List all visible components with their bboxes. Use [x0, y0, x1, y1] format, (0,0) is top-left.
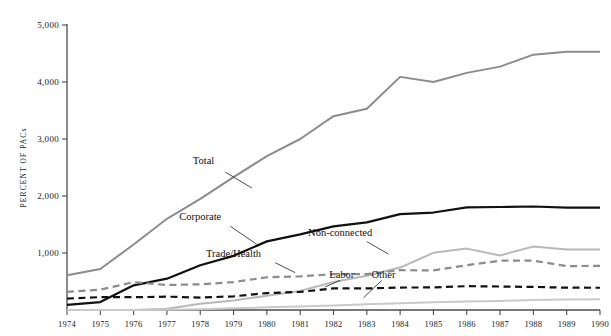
- x-tick-label: 1989: [558, 319, 576, 329]
- y-tick-label: 2,000: [37, 191, 59, 201]
- x-tick-label: 1985: [425, 319, 443, 329]
- y-axis-title: PERCENT OF PACs: [19, 128, 28, 208]
- series-line-labor: [67, 286, 600, 298]
- leader-line-trade-health: [275, 263, 295, 273]
- x-tick-label: 1978: [191, 319, 209, 329]
- x-tick-label: 1980: [258, 319, 276, 329]
- x-tick-label: 1976: [125, 319, 143, 329]
- x-tick-label: 1974: [58, 319, 76, 329]
- series-label-corporate: Corporate: [179, 211, 221, 222]
- x-tick-label: 1975: [91, 319, 109, 329]
- leader-line-non-connected: [367, 242, 389, 255]
- series-label-non-connected: Non-connected: [308, 227, 373, 238]
- series-label-total: Total: [193, 155, 215, 166]
- chart-canvas: 1,0002,0003,0004,0005,000197419751976197…: [0, 0, 611, 336]
- x-tick-label: 1986: [458, 319, 476, 329]
- leader-line-corporate: [230, 226, 257, 244]
- y-tick-label: 5,000: [37, 20, 59, 30]
- x-tick-label: 1977: [158, 319, 176, 329]
- series-line-total: [67, 52, 600, 276]
- series-line-corporate: [67, 206, 600, 304]
- x-tick-label: 1984: [391, 319, 409, 329]
- series-label-other: Other: [372, 269, 396, 280]
- x-tick-label: 1979: [225, 319, 243, 329]
- y-tick-label: 3,000: [37, 134, 59, 144]
- x-tick-label: 1987: [491, 319, 509, 329]
- x-tick-label: 1988: [524, 319, 542, 329]
- series-label-trade-health: Trade/Health: [206, 248, 262, 259]
- x-tick-label: 1990: [591, 319, 609, 329]
- x-tick-label: 1982: [325, 319, 343, 329]
- y-tick-label: 4,000: [37, 77, 59, 87]
- pac-growth-line-chart: 1,0002,0003,0004,0005,000197419751976197…: [0, 0, 611, 336]
- series-label-labor: Labor: [329, 269, 355, 280]
- series-line-other: [67, 299, 600, 310]
- x-tick-label: 1983: [358, 319, 376, 329]
- x-tick-label: 1981: [291, 319, 309, 329]
- y-tick-label: 1,000: [37, 248, 59, 258]
